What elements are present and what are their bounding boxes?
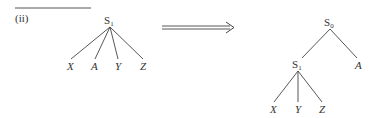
right-leaf-a: A <box>355 60 362 71</box>
right-root-node: S0 <box>324 17 334 32</box>
left-tree-edges <box>71 27 143 59</box>
right-tree-edges <box>274 29 357 102</box>
section-label: (ii) <box>15 13 28 24</box>
left-leaf-z: Z <box>140 61 146 72</box>
right-leaf-x: X <box>270 104 277 115</box>
diagram-lines <box>0 0 378 118</box>
left-leaf-x: X <box>67 61 74 72</box>
double-arrow-icon <box>162 22 234 33</box>
right-child-node: S1 <box>292 59 302 74</box>
tree-transformation-diagram: (ii) S1 X A Y Z S0 S1 A X Y Z <box>0 0 378 118</box>
left-leaf-a: A <box>91 61 98 72</box>
left-root-node: S1 <box>104 15 114 30</box>
left-leaf-y: Y <box>115 61 121 72</box>
right-leaf-y: Y <box>295 104 301 115</box>
right-leaf-z: Z <box>319 104 325 115</box>
